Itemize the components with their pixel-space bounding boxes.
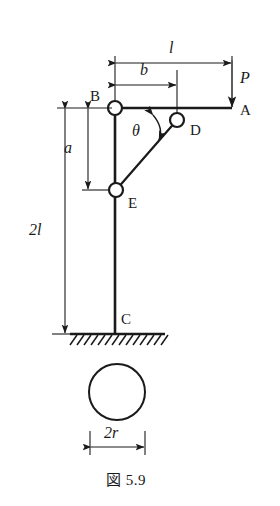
ground-support <box>70 334 168 345</box>
pin-joints <box>108 101 184 197</box>
member-link-DE <box>116 120 177 190</box>
figure-caption: 図 5.9 <box>106 473 146 488</box>
angle-theta-curve <box>153 115 161 140</box>
point-label-B: B <box>90 89 100 104</box>
dim-label-a: a <box>64 140 72 156</box>
joint-D <box>170 113 184 127</box>
point-label-A: A <box>240 103 251 118</box>
angle-label-theta: θ <box>132 123 140 139</box>
dim-label-2r: 2r <box>104 425 118 441</box>
point-label-E: E <box>128 196 137 211</box>
dim-label-2l: 2l <box>29 222 41 238</box>
structure-members <box>115 108 232 334</box>
dim-label-b: b <box>140 62 148 78</box>
dimension-l <box>115 56 232 102</box>
load-label-P: P <box>240 70 250 86</box>
ground-hatching <box>70 335 168 345</box>
point-label-D: D <box>190 123 201 138</box>
point-label-C: C <box>121 312 131 327</box>
joint-E <box>109 183 123 197</box>
cross-section-circle <box>89 364 145 420</box>
circle-outline <box>89 364 145 420</box>
dim-label-l: l <box>169 40 173 56</box>
angle-theta-arc <box>153 115 161 140</box>
figure-5-9: l b P A B D E C θ a 2l 2r 図 5.9 <box>0 0 280 506</box>
